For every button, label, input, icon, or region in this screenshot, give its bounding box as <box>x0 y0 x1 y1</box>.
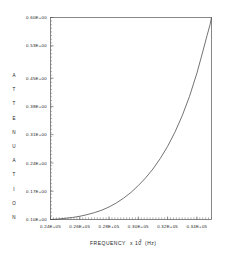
y-axis: 0.10E+000.17E+000.24E+000.31E+000.38E+00… <box>26 15 53 222</box>
y-tick-label: 0.17E+00 <box>26 189 47 194</box>
x-tick-label: 0.28E+05 <box>99 224 120 229</box>
plot-frame <box>51 18 212 220</box>
y-axis-title-letter: I <box>13 187 14 192</box>
x-tick-label: 0.34E+05 <box>186 224 207 229</box>
data-series-attenuation <box>51 18 212 220</box>
x-tick-label: 0.30E+05 <box>128 224 149 229</box>
x-axis-title-main: FREQUENCY <box>90 240 126 246</box>
x-axis-title-unit: (Hz) <box>145 240 156 246</box>
y-axis-title-letter: N <box>12 130 15 135</box>
attenuation-vs-frequency-chart: 0.10E+000.17E+000.24E+000.31E+000.38E+00… <box>0 0 228 257</box>
x-tick-label: 0.26E+05 <box>69 224 90 229</box>
y-tick-label: 0.31E+00 <box>26 132 47 137</box>
y-tick-label: 0.45E+00 <box>26 76 47 81</box>
y-axis-title-letter: T <box>13 172 16 177</box>
y-axis-title-letter: O <box>12 201 16 206</box>
chart-figure: 0.10E+000.17E+000.24E+000.31E+000.38E+00… <box>0 0 228 257</box>
x-axis-title-exponent: 3 <box>140 239 142 243</box>
y-tick-label: 0.53E+00 <box>26 43 47 48</box>
y-axis-title-letter: U <box>12 144 15 149</box>
x-axis-title: FREQUENCY x 10 3 (Hz) <box>90 239 156 246</box>
y-axis-title-letter: T <box>13 101 16 106</box>
x-tick-label: 0.32E+05 <box>157 224 178 229</box>
y-tick-label: 0.60E+00 <box>26 15 47 20</box>
y-tick-label: 0.10E+00 <box>26 217 47 222</box>
y-axis-title-letter: T <box>13 87 16 92</box>
y-axis-title-letter: E <box>12 116 15 121</box>
y-tick-label: 0.24E+00 <box>26 161 47 166</box>
y-axis-title-letter: N <box>12 215 15 220</box>
y-axis-title: ATTENUATION <box>12 73 16 220</box>
x-tick-label: 0.24E+05 <box>40 224 61 229</box>
y-tick-label: 0.38E+00 <box>26 104 47 109</box>
y-axis-title-letter: A <box>12 73 16 78</box>
y-axis-title-letter: A <box>12 158 16 163</box>
